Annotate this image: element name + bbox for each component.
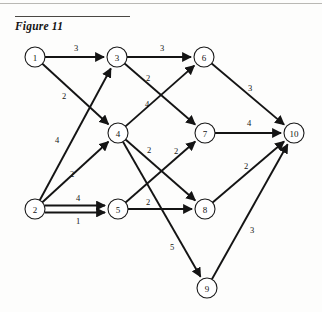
node-label: 2	[33, 205, 38, 215]
graph-edge	[212, 144, 288, 279]
graph-edge	[126, 142, 196, 203]
edge-weight-label: 3	[248, 83, 252, 93]
edge-weight-label: 3	[250, 225, 254, 235]
edge-weight-label: 2	[70, 169, 74, 179]
graph-node-2[interactable]: 2	[25, 199, 45, 219]
edge-weight-label: 3	[74, 43, 78, 53]
graph-node-7[interactable]: 7	[195, 123, 215, 143]
graph-node-8[interactable]: 8	[195, 199, 215, 219]
edge-weight-label: 3	[160, 43, 164, 53]
node-label: 9	[205, 284, 210, 294]
edge-weight-label: 2	[146, 73, 150, 83]
edge-weight-label: 2	[147, 145, 151, 155]
graph-edge	[125, 64, 196, 125]
graph-edge	[213, 141, 285, 202]
edge-weight-label: 5	[170, 242, 174, 252]
node-label: 6	[202, 53, 207, 63]
graph-node-3[interactable]: 3	[107, 47, 127, 67]
graph-edge	[40, 68, 111, 200]
graph-node-5[interactable]: 5	[108, 199, 128, 219]
edge-weight-label: 4	[145, 99, 150, 109]
node-label: 8	[203, 205, 208, 215]
node-label: 5	[116, 205, 121, 215]
edge-weight-label: 4	[55, 135, 60, 145]
graph-node-1[interactable]: 1	[25, 47, 45, 67]
graph-node-10[interactable]: 10	[284, 123, 304, 143]
graph-node-4[interactable]: 4	[108, 123, 128, 143]
edge-weight-label: 2	[244, 161, 248, 171]
node-label: 4	[116, 129, 121, 139]
graph-edge	[126, 140, 196, 201]
edge-weight-label: 4	[76, 193, 81, 203]
graph-edge	[212, 63, 284, 124]
weighted-directed-graph: 12345678910 32424132425223423	[0, 0, 322, 312]
edge-weight-label: 2	[146, 197, 150, 207]
node-label: 10	[290, 129, 300, 139]
node-label: 3	[115, 53, 120, 63]
graph-node-9[interactable]: 9	[197, 278, 217, 298]
graph-edge	[125, 66, 194, 127]
edge-weight-label: 2	[62, 91, 66, 101]
graph-node-6[interactable]: 6	[194, 47, 214, 67]
edge-weight-label: 4	[247, 118, 252, 128]
figure-page: Figure 11 12345678910 32424132425223423	[0, 0, 322, 312]
node-label: 7	[203, 129, 208, 139]
node-label: 1	[33, 53, 38, 63]
graph-edge	[42, 64, 108, 124]
edge-weight-label: 2	[174, 146, 178, 156]
edge-weight-label: 1	[76, 216, 80, 226]
